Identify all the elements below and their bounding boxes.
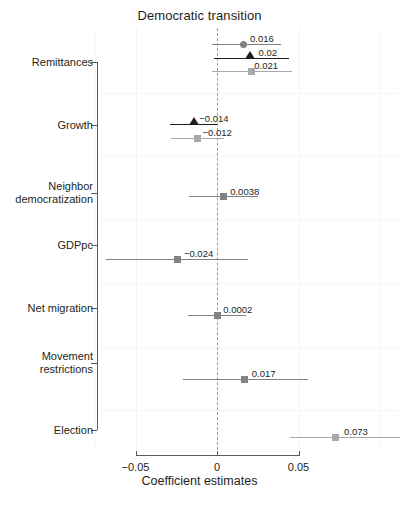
estimate-value-label: 0.021 [254, 60, 278, 71]
y-axis-spine [97, 62, 98, 430]
y-gridline [101, 93, 399, 94]
x-axis-tick [136, 451, 137, 456]
x-axis-tick-label: −0.05 [122, 461, 150, 473]
x-gridline [136, 28, 137, 450]
y-axis-label-remittances: Remittances [32, 56, 93, 69]
y-gridline [101, 220, 399, 221]
x-axis-tick [299, 451, 300, 456]
x-axis-tick [217, 451, 218, 456]
x-gridline-minor [380, 28, 381, 450]
estimate-marker-square [214, 312, 221, 319]
estimate-value-label: −0.012 [202, 127, 231, 138]
y-axis-label-net-migration: Net migration [28, 302, 93, 315]
estimate-value-label: 0.0002 [223, 304, 252, 315]
y-axis-label-election: Election [54, 424, 93, 437]
estimate-value-label: 0.016 [250, 33, 274, 44]
estimate-marker-circle [240, 41, 247, 48]
y-gridline [101, 156, 399, 157]
estimate-value-label: 0.073 [344, 426, 368, 437]
x-axis-tick-label: 0 [214, 461, 220, 473]
estimate-marker-square [241, 376, 248, 383]
x-axis-tick-label: 0.05 [288, 461, 309, 473]
confidence-interval-bar [290, 437, 399, 438]
estimate-value-label: 0.0038 [230, 186, 259, 197]
estimate-marker-triangle [189, 117, 199, 125]
estimate-marker-triangle [245, 51, 255, 59]
x-axis-title: Coefficient estimates [0, 474, 399, 488]
x-gridline-minor [95, 28, 96, 450]
y-gridline [101, 347, 399, 348]
y-axis-label-movement-restrictions: Movement restrictions [40, 350, 93, 376]
estimate-marker-square [174, 256, 181, 263]
estimate-value-label: −0.024 [184, 248, 213, 259]
estimate-marker-square [220, 193, 227, 200]
estimate-value-label: 0.017 [252, 368, 276, 379]
estimate-marker-square [332, 434, 339, 441]
zero-reference-line [217, 28, 218, 450]
y-gridline [101, 410, 399, 411]
estimate-value-label: 0.02 [259, 47, 278, 58]
y-axis-label-gdppc: GDPpc [58, 239, 93, 252]
estimate-value-label: −0.014 [199, 113, 228, 124]
estimate-marker-square [194, 135, 201, 142]
y-axis-label-neighbor-democratization: Neighbor democratization [15, 180, 93, 206]
x-gridline [299, 28, 300, 450]
y-gridline [101, 283, 399, 284]
y-axis-label-growth: Growth [58, 119, 93, 132]
